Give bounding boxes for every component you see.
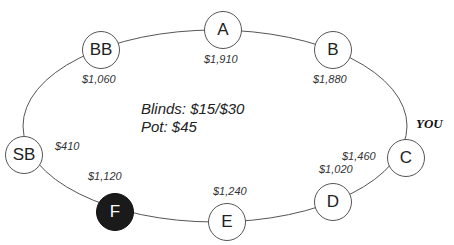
seat-label: BB — [90, 40, 113, 60]
blinds-text: Blinds: $15/$30 — [141, 100, 244, 118]
stack-b: $1,880 — [313, 73, 347, 85]
stack-d: $1,020 — [319, 163, 353, 175]
stack-bb: $1,060 — [82, 73, 116, 85]
seat-label: A — [217, 20, 228, 40]
table-info: Blinds: $15/$30 Pot: $45 — [141, 100, 244, 136]
stack-e: $1,240 — [213, 185, 247, 197]
stack-f: $1,120 — [88, 170, 122, 182]
seat-label: B — [327, 40, 338, 60]
pot-text: Pot: $45 — [141, 118, 244, 136]
seat-f-highlighted: F — [96, 193, 134, 231]
seat-label: D — [327, 192, 339, 212]
seat-sb: SB — [5, 136, 43, 174]
seat-a: A — [204, 11, 242, 49]
seat-d: D — [314, 183, 352, 221]
seat-label: F — [110, 202, 120, 222]
seat-label: E — [221, 212, 232, 232]
seat-label: SB — [13, 145, 36, 165]
stack-a: $1,910 — [204, 53, 238, 65]
stack-sb: $410 — [55, 140, 79, 152]
you-label: YOU — [416, 116, 443, 132]
stack-c: $1,460 — [342, 150, 376, 162]
seat-b: B — [314, 31, 352, 69]
seat-label: C — [400, 148, 412, 168]
seat-e: E — [208, 203, 246, 241]
seat-c: C — [387, 139, 425, 177]
seat-bb: BB — [82, 31, 120, 69]
